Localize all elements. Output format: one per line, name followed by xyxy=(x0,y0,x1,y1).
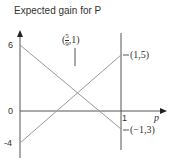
annotation-5-9-1: (59,1) xyxy=(62,33,80,48)
y-axis-label: Expected gain for P xyxy=(14,5,101,16)
y-tick-minus4: -4 xyxy=(4,138,12,148)
annotation-rest: ,1) xyxy=(69,34,80,45)
annotation-1-5: (1,5) xyxy=(130,50,149,60)
y-axis-arrow-icon xyxy=(17,30,23,37)
y-tick-6: 6 xyxy=(8,40,13,50)
y-tick-0: 0 xyxy=(8,106,13,116)
x-tick-1: 1 xyxy=(122,113,127,123)
series-line-b xyxy=(20,55,121,143)
x-axis-label: p xyxy=(154,113,159,123)
chart-canvas xyxy=(0,0,174,164)
annotation-minus1-3: (−1,3) xyxy=(130,125,155,135)
x-axis-arrow-icon xyxy=(160,108,167,114)
series-line-a xyxy=(20,45,121,129)
